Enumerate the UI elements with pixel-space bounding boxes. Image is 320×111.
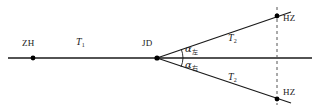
point-hz-upper-marker — [275, 14, 280, 19]
angle-arc-upper — [181, 49, 183, 58]
label-zh: ZH — [22, 39, 34, 48]
point-zh-marker — [31, 56, 36, 61]
lower-branch-line — [157, 58, 291, 103]
label-tangent-t1: T1 — [76, 37, 85, 48]
label-alpha-lower: α右 — [185, 60, 198, 71]
label-tangent-t2-lower: T2 — [228, 72, 237, 83]
label-alpha-upper: α左 — [185, 44, 198, 55]
label-alpha-upper-base: α — [185, 43, 192, 54]
label-tangent-t2-upper-subscript: 2 — [234, 38, 237, 44]
label-alpha-lower-base: α — [185, 59, 192, 70]
label-hz-lower: HZ — [283, 88, 295, 97]
label-tangent-t2-lower-base: T — [228, 71, 234, 82]
label-tangent-t2-lower-subscript: 2 — [234, 77, 237, 83]
point-jd-marker — [154, 55, 159, 60]
label-tangent-t2-upper-base: T — [228, 32, 234, 43]
label-alpha-upper-subscript: 左 — [192, 48, 198, 55]
label-jd: JD — [142, 39, 152, 48]
label-hz-upper: HZ — [283, 14, 295, 23]
upper-branch-line — [157, 12, 291, 58]
label-tangent-t2-upper: T2 — [228, 33, 237, 44]
label-alpha-lower-subscript: 右 — [192, 64, 198, 71]
diagram-canvas — [0, 0, 320, 111]
route-alignment-diagram: ZH JD T1 T2 T2 α左 α右 HZ HZ — [0, 0, 320, 111]
label-tangent-t1-subscript: 1 — [82, 42, 85, 48]
angle-arc-lower — [181, 58, 183, 67]
label-tangent-t1-base: T — [76, 36, 82, 47]
point-hz-lower-marker — [275, 97, 280, 102]
